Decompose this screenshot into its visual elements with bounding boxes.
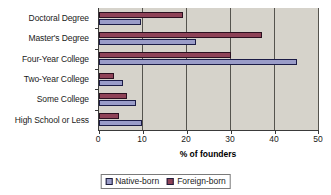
bar-foreign-born (99, 12, 183, 18)
category-axis-labels: Doctoral DegreeMaster's DegreeFour-Year … (0, 8, 94, 130)
bar-chart: Doctoral DegreeMaster's DegreeFour-Year … (0, 0, 331, 195)
y-axis-tick (95, 89, 99, 90)
y-axis-tick (95, 69, 99, 70)
y-axis-tick (95, 28, 99, 29)
bar-foreign-born (99, 113, 119, 119)
category-label: Doctoral Degree (0, 8, 94, 28)
bar-native-born (99, 120, 142, 126)
bar-foreign-born (99, 93, 127, 99)
x-axis-tick-label: 40 (269, 134, 278, 144)
category-band (99, 110, 319, 130)
category-label: Master's Degree (0, 28, 94, 48)
category-band (99, 89, 319, 109)
bar-foreign-born (99, 73, 114, 79)
category-band (99, 8, 319, 28)
bar-native-born (99, 100, 136, 106)
legend-label: Native-born (115, 176, 159, 186)
x-axis-tick-label: 10 (137, 134, 146, 144)
bar-native-born (99, 39, 196, 45)
x-axis-tick-label: 0 (96, 134, 101, 144)
x-axis-title: % of founders (98, 149, 318, 159)
native-born-swatch-icon (105, 178, 112, 185)
chart-legend: Native-bornForeign-born (100, 174, 231, 189)
bar-foreign-born (99, 52, 231, 58)
y-axis-tick (95, 110, 99, 111)
category-band (99, 28, 319, 48)
plot-area (98, 8, 319, 131)
x-axis-tick-label: 50 (313, 134, 322, 144)
y-axis-tick (95, 49, 99, 50)
legend-entry: Foreign-born (167, 176, 226, 186)
category-label: Four-Year College (0, 49, 94, 69)
foreign-born-swatch-icon (167, 178, 174, 185)
legend-label: Foreign-born (177, 176, 226, 186)
x-axis-tick-label: 30 (225, 134, 234, 144)
plot-inner (99, 8, 319, 130)
x-axis-tick-label: 20 (181, 134, 190, 144)
bar-native-born (99, 59, 297, 65)
x-axis-tick-labels: 01020304050 (98, 134, 318, 146)
category-band (99, 69, 319, 89)
category-label: Some College (0, 89, 94, 109)
category-label: Two-Year College (0, 69, 94, 89)
bar-foreign-born (99, 32, 262, 38)
legend-entry: Native-born (105, 176, 159, 186)
bar-native-born (99, 80, 123, 86)
category-band (99, 49, 319, 69)
category-label: High School or Less (0, 110, 94, 130)
bar-native-born (99, 19, 141, 25)
